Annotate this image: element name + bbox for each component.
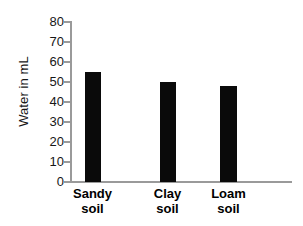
y-axis-tick-mark bbox=[64, 21, 71, 23]
x-axis-label-line-2: soil bbox=[133, 201, 203, 216]
y-axis-tick-label: 10 bbox=[28, 155, 64, 168]
x-axis-label-loam-soil: Loamsoil bbox=[194, 186, 264, 216]
bar-chart-figure: Water in mL 80706050403020100 SandysoilC… bbox=[0, 0, 303, 226]
y-axis-tick-mark bbox=[64, 161, 71, 163]
bar-loam-soil bbox=[220, 86, 237, 182]
x-axis-line bbox=[70, 181, 292, 183]
y-axis-tick-label: 20 bbox=[28, 135, 64, 148]
y-axis-tick-mark bbox=[64, 61, 71, 63]
x-axis-label-clay-soil: Claysoil bbox=[133, 186, 203, 216]
y-axis-tick-mark bbox=[64, 121, 71, 123]
y-axis-tick-mark bbox=[64, 141, 71, 143]
x-axis-label-line-1: Sandy bbox=[73, 186, 112, 201]
y-axis-tick-mark bbox=[64, 81, 71, 83]
y-axis-tick-label: 40 bbox=[28, 95, 64, 108]
plot-area: 80706050403020100 SandysoilClaysoilLoams… bbox=[0, 0, 303, 226]
x-axis-label-line-1: Loam bbox=[211, 186, 246, 201]
y-axis-tick-label: 60 bbox=[28, 55, 64, 68]
y-axis-tick-label: 80 bbox=[28, 15, 64, 28]
x-axis-label-line-2: soil bbox=[58, 201, 128, 216]
y-axis-tick-mark bbox=[64, 101, 71, 103]
y-axis-tick-label: 30 bbox=[28, 115, 64, 128]
y-axis-tick-mark bbox=[64, 41, 71, 43]
bar-clay-soil bbox=[160, 82, 176, 182]
y-axis-tick-mark bbox=[64, 181, 71, 183]
x-axis-label-line-1: Clay bbox=[154, 186, 181, 201]
x-axis-label-line-2: soil bbox=[194, 201, 264, 216]
y-axis-tick-label: 50 bbox=[28, 75, 64, 88]
y-axis-tick-label: 70 bbox=[28, 35, 64, 48]
x-axis-label-sandy-soil: Sandysoil bbox=[58, 186, 128, 216]
bar-sandy-soil bbox=[85, 72, 101, 182]
